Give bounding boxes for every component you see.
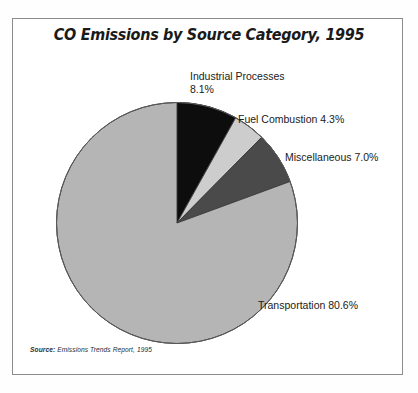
chart-title: CO Emissions by Source Category, 1995: [15, 26, 404, 44]
label-industrial-processes-value: 8.1%: [190, 83, 285, 96]
label-transportation: Transportation 80.6%: [258, 299, 358, 312]
label-industrial-processes: Industrial Processes 8.1%: [190, 70, 285, 96]
source-note-text: Emissions Trends Report, 1995: [57, 346, 152, 353]
source-note: Source: Emissions Trends Report, 1995: [30, 346, 152, 353]
source-note-prefix: Source:: [30, 346, 55, 353]
figure-root: CO Emissions by Source Category, 1995 In…: [0, 0, 418, 393]
label-industrial-processes-name: Industrial Processes: [190, 70, 285, 82]
label-miscellaneous: Miscellaneous 7.0%: [285, 151, 378, 164]
label-fuel-combustion: Fuel Combustion 4.3%: [238, 113, 344, 126]
